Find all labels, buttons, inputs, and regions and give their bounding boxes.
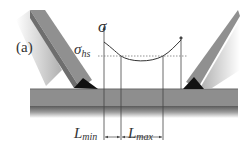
panel-label: (a) [16,40,33,55]
lmax-label: Lmax [128,126,153,142]
stress-plot [98,26,188,140]
stress-axis-label: σ [98,18,106,35]
right-inclined-plate [186,10,240,88]
lmin-label: Lmin [74,126,97,142]
stress-curve [104,40,181,61]
lmax-sub: max [136,131,153,142]
hotspot-label-sub: hs [81,48,90,59]
hotspot-stress-label: σhs [74,42,90,59]
weld-joint-diagram [0,0,246,163]
lmin-sub: min [82,131,97,142]
base-plate [30,89,238,118]
